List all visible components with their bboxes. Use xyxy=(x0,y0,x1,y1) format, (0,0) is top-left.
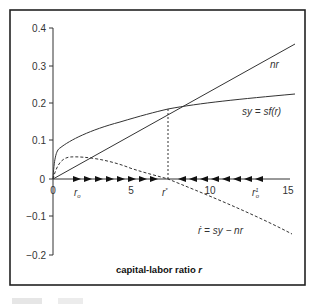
r0-label: ro xyxy=(74,187,81,199)
x-tick-5: 5 xyxy=(128,185,134,196)
r01-label: r1o xyxy=(252,187,260,199)
y-tick-0.3: 0.3 xyxy=(32,61,46,72)
y-tick-0.2: 0.2 xyxy=(32,98,46,109)
x-tick-0: 0 xyxy=(50,185,56,196)
y-tick-neg0.1: −0.1 xyxy=(26,211,46,222)
y-tick-0.4: 0.4 xyxy=(32,23,46,34)
caption-fragment xyxy=(58,298,83,304)
caption-fragment xyxy=(12,298,42,304)
nr-label: nr xyxy=(270,59,280,70)
y-tick-0: 0 xyxy=(39,174,45,185)
y-axis: 0.4 0.3 0.2 0.1 0 −0.1 −0.2 xyxy=(26,23,53,261)
x-tick-15: 15 xyxy=(282,185,294,196)
y-tick-0.1: 0.1 xyxy=(32,135,46,146)
x-axis-title: capital-labor ratio r xyxy=(116,264,203,275)
phase-diagram-chart: 0.4 0.3 0.2 0.1 0 −0.1 −0.2 0 5 10 15 xyxy=(0,0,320,304)
sy-label: sy = sf(r) xyxy=(242,106,281,117)
rstar-label: r* xyxy=(162,187,168,198)
rdot-label: ṙ = sy − nr xyxy=(198,225,244,236)
y-tick-neg0.2: −0.2 xyxy=(26,250,46,261)
chart-frame xyxy=(10,10,305,285)
